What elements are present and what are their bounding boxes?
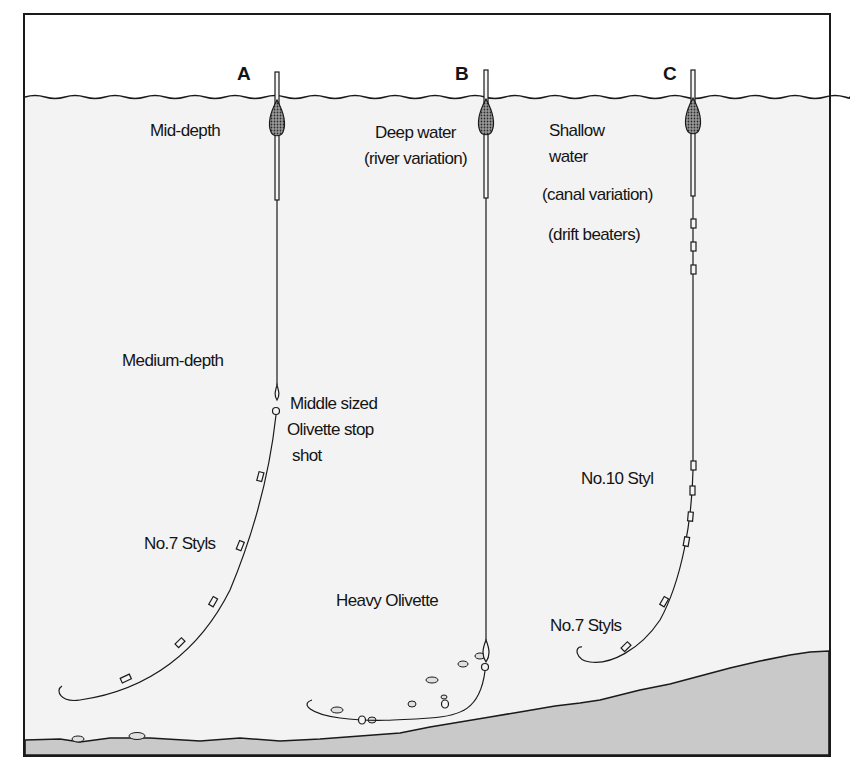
rig-c-styl-10-label: No.10 Styl: [581, 468, 653, 490]
rig-c-styls-7-label: No.7 Styls: [550, 615, 621, 637]
rig-c-title-line-1: Shallow: [549, 120, 604, 142]
rig-a-styls-label: No.7 Styls: [144, 533, 215, 555]
rig-b-heavy-olivette-label: Heavy Olivette: [336, 590, 438, 612]
rig-c-letter: C: [663, 63, 677, 85]
rig-a-olivette-stop-label: Olivette stop: [287, 419, 374, 441]
rig-a-letter: A: [237, 63, 251, 85]
rig-b-title-line-1: Deep water: [375, 122, 456, 144]
rig-a-title: Mid-depth: [150, 120, 220, 142]
rig-c-title-line-4: (drift beaters): [548, 224, 640, 246]
rig-a-shot-label: shot: [292, 445, 322, 467]
rig-a-middle-sized-label: Middle sized: [290, 393, 377, 415]
rig-b-title-line-2: (river variation): [364, 148, 467, 170]
rig-c-title-line-3: (canal variation): [542, 184, 653, 206]
rig-c-title-line-2: water: [549, 146, 588, 168]
water: [25, 97, 829, 755]
rig-b-letter: B: [455, 63, 469, 85]
rig-diagram: [0, 0, 850, 777]
rig-a-medium-depth-label: Medium-depth: [122, 350, 223, 372]
